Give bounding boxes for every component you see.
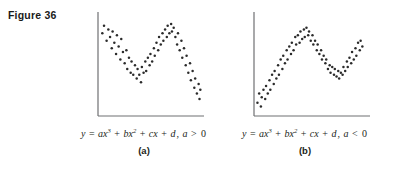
data-point [291,41,294,44]
data-point [166,25,169,28]
data-point [162,40,165,43]
data-point [318,53,321,56]
data-point [197,83,200,86]
data-point [189,62,192,65]
data-point [316,43,319,46]
data-point [107,28,110,31]
data-point [359,40,362,43]
data-point [320,49,323,52]
data-point [271,73,274,76]
data-point [142,72,145,75]
data-point [198,98,201,101]
data-point [359,49,362,52]
data-point [268,79,271,82]
scatter-plot-b [240,8,370,124]
data-point [115,53,118,56]
panel-a: y = ax3 + bx2 + cx + d, a > 0 (a) [84,8,204,163]
eq-b-condition-op: < [351,128,359,139]
data-point [350,62,353,65]
data-point [134,64,137,67]
data-point [190,79,193,82]
data-point [294,36,297,39]
data-point [361,45,364,48]
data-point [314,40,317,43]
data-point [148,64,151,67]
data-point [111,47,114,50]
data-point [153,47,156,50]
data-point [341,73,344,76]
data-point [171,30,174,33]
data-point [161,32,164,35]
eq-b-plus1: + [274,128,282,139]
data-point [122,51,125,54]
data-point [260,105,263,108]
data-point [194,77,197,80]
data-point [196,92,199,95]
eq-a-comma: , [175,128,180,139]
data-point [346,66,349,69]
data-point [117,45,120,48]
data-point [151,60,154,63]
data-point [260,96,263,99]
data-point [138,73,141,76]
scatter-plot-a-svg [84,8,204,124]
data-point [346,60,349,63]
data-point [355,55,358,58]
equation-caption-b: y = ax3 + bx2 + cx + d, a < 0 [242,127,368,139]
data-point [120,38,123,41]
data-point [278,73,281,76]
data-point [312,43,315,46]
data-point [181,56,184,59]
data-point [164,28,167,31]
panel-sublabel-a: (a) [138,145,150,156]
eq-b-condition-var: a [343,128,348,139]
data-point [357,41,360,44]
data-point [290,53,293,56]
data-point [340,72,343,75]
data-point [116,34,119,37]
data-point [353,58,356,61]
data-point [144,60,147,63]
data-point [113,41,116,44]
eq-a-condition-var: a [182,128,187,139]
data-point [311,34,314,37]
data-point [191,70,194,73]
data-point [295,43,298,46]
scatter-plot-a [84,8,204,124]
data-point [170,23,173,26]
eq-b-comma: , [336,128,341,139]
data-point [334,68,337,71]
data-point [128,56,130,59]
data-point [184,64,187,67]
data-point [329,72,332,75]
eq-a-plus3: + [160,128,168,139]
data-point [103,25,106,28]
eq-a-term3-var: x [153,128,157,139]
data-point [183,47,186,50]
data-point [199,88,202,91]
data-point [267,92,270,95]
eq-b-equals: = [249,128,257,139]
data-point [265,85,268,88]
data-point [321,58,324,61]
eq-b-term1-exp: 3 [269,127,272,134]
data-point [277,64,280,67]
data-point [305,26,308,29]
panel-b: y = ax3 + bx2 + cx + d, a < 0 (b) [240,8,370,163]
data-point [303,36,306,39]
data-point [149,53,152,56]
data-point [136,68,139,71]
data-point [160,43,163,46]
data-point [178,49,181,52]
data-point [193,87,196,90]
data-point [154,55,157,58]
data-point [177,32,180,35]
eq-a-equals: = [88,128,96,139]
data-point [145,70,148,73]
figure-label: Figure 36 [8,9,56,21]
data-point [258,92,261,95]
data-point [275,77,278,80]
data-point [126,68,129,71]
scatter-plot-b-svg [240,8,370,124]
data-point [132,73,135,76]
